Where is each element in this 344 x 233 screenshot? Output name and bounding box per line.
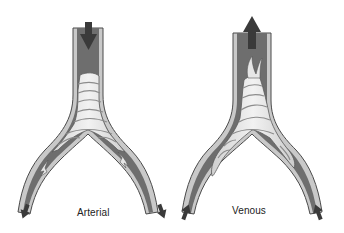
venous-vessel-diagram bbox=[172, 0, 344, 233]
venous-label: Venous bbox=[232, 205, 266, 216]
arterial-vessel-diagram bbox=[0, 0, 172, 233]
arterial-panel: Arterial bbox=[0, 0, 172, 233]
venous-panel: Venous bbox=[172, 0, 344, 233]
thrombus bbox=[52, 73, 125, 152]
arterial-label: Arterial bbox=[77, 207, 109, 218]
